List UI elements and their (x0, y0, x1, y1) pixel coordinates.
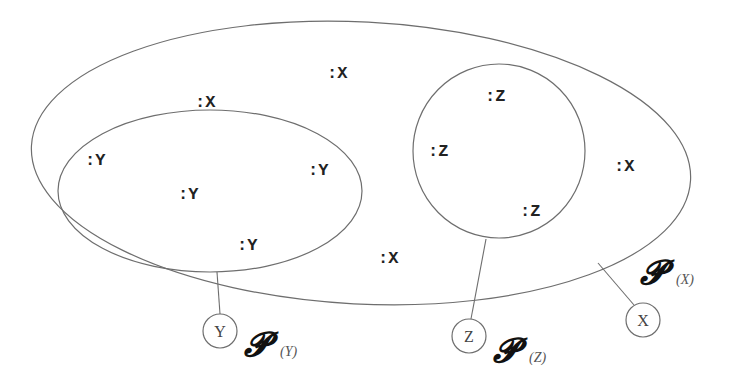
node-y: Y (203, 314, 237, 348)
instance-x: :X (327, 64, 348, 83)
instance-z: :Z (485, 87, 505, 106)
instance-y: :Y (308, 161, 329, 180)
instance-z: :Z (520, 202, 540, 221)
powerset-x-label: 𝓟 (X) (640, 252, 694, 292)
set-y-ellipse (58, 110, 362, 272)
set-x-ellipse (24, 5, 698, 321)
set-diagram: Y Z X 𝓟 (Y) 𝓟 (Z) 𝓟 (X) :X :X :X :X :Y :… (0, 0, 734, 385)
connector-y (217, 272, 220, 314)
node-z-label: Z (464, 328, 474, 345)
powerset-y-symbol: 𝓟 (244, 324, 279, 364)
node-z: Z (452, 319, 486, 353)
instance-x: :X (614, 157, 635, 176)
powerset-y-subscript: (Y) (280, 344, 297, 360)
powerset-z-label: 𝓟 (Z) (493, 330, 546, 370)
powerset-x-subscript: (X) (676, 272, 694, 288)
powerset-y-label: 𝓟 (Y) (244, 324, 297, 364)
powerset-z-symbol: 𝓟 (493, 330, 528, 370)
instance-x: :X (195, 93, 216, 112)
node-x: X (626, 303, 660, 337)
powerset-z-subscript: (Z) (529, 350, 546, 366)
connector-x (598, 263, 634, 305)
instance-x: :X (378, 249, 399, 268)
instance-y: :Y (85, 151, 106, 170)
node-y-label: Y (214, 323, 226, 340)
instance-y: :Y (237, 236, 258, 255)
connector-z (471, 239, 486, 319)
powerset-x-symbol: 𝓟 (640, 252, 675, 292)
instance-z: :Z (428, 142, 448, 161)
node-x-label: X (637, 312, 649, 329)
instance-y: :Y (178, 185, 199, 204)
